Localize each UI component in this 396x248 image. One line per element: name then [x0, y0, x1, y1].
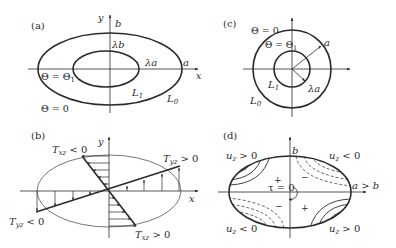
- tyz-distribution-line: [36, 166, 180, 212]
- a-label: a: [324, 37, 330, 48]
- panel-c: (c) Θ = 0 Θ = Θ1 a λa L1 L0: [223, 18, 350, 117]
- panel-label-b: (b): [31, 130, 45, 141]
- txz-positive-label: Txz > 0: [135, 229, 170, 242]
- minus-sign-top-right: −: [301, 172, 309, 182]
- figure-svg: (a) y b λb λa a x Θ = Θ1 Θ = 0 L1 L0 (c)…: [0, 0, 396, 248]
- theta-inner-label: Θ = Θ1: [41, 71, 75, 84]
- panel-b: (b) y x Txz < 0 Tyz > 0 Tyz < 0 Txz > 0: [9, 130, 198, 242]
- L1-label: L1: [131, 87, 143, 100]
- txz-negative-label: Txz < 0: [52, 144, 87, 157]
- uz-bottom-right-label: uz > 0: [329, 223, 360, 236]
- theta-outer-label: Θ = 0: [251, 25, 279, 36]
- uz-bottom-left-label: uz < 0: [226, 223, 257, 236]
- lambda-a-label: λa: [307, 83, 320, 94]
- uz-top-left-label: uz > 0: [226, 150, 257, 163]
- uz-top-right-label: uz < 0: [329, 150, 360, 163]
- panel-a: (a) y b λb λa a x Θ = Θ1 Θ = 0 L1 L0: [28, 12, 202, 114]
- tyz-negative-label: Tyz < 0: [9, 216, 44, 229]
- panel-d: (d) b a > b τ = 0 + − − + uz > 0 uz < 0 …: [218, 130, 379, 238]
- panel-label-d: (d): [223, 130, 237, 141]
- minus-sign-bottom-left: −: [275, 201, 283, 211]
- a-gt-b-label: a > b: [352, 180, 379, 191]
- x-axis-label: x: [196, 70, 202, 81]
- lambda-a-label: λa: [144, 57, 157, 68]
- L0-label: L0: [249, 95, 262, 108]
- b-label: b: [115, 18, 121, 29]
- lambda-b-label: λb: [111, 39, 125, 50]
- x-axis-label: x: [189, 193, 195, 204]
- panel-label-a: (a): [31, 20, 45, 31]
- radius-lambda-a-arrow: [292, 69, 305, 81]
- panel-label-c: (c): [223, 18, 237, 29]
- L0-label: L0: [166, 93, 179, 106]
- tyz-positive-label: Tyz > 0: [163, 153, 198, 166]
- b-label: b: [292, 145, 298, 156]
- figure-canvas: (a) y b λb λa a x Θ = Θ1 Θ = 0 L1 L0 (c)…: [0, 0, 396, 248]
- plus-sign-top-left: +: [274, 175, 282, 185]
- a-label: a: [183, 57, 189, 68]
- y-axis-label: y: [97, 12, 104, 23]
- L1-label: L1: [267, 79, 279, 92]
- plus-sign-bottom-right: +: [301, 203, 309, 213]
- theta-inner-label: Θ = Θ1: [265, 40, 297, 52]
- y-axis-label: y: [97, 136, 104, 147]
- theta-outer-label: Θ = 0: [41, 103, 69, 114]
